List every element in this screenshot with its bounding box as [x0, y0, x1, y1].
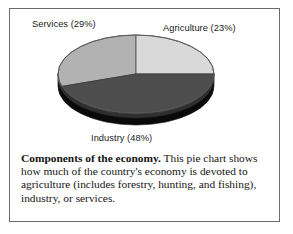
- figure-caption: Components of the economy. This pie char…: [21, 152, 268, 205]
- pie-slice-agriculture: [136, 35, 214, 74]
- figure-root: Services (29%) Agriculture (23%) Industr…: [0, 0, 293, 234]
- pie-label-agriculture: Agriculture (23%): [163, 23, 236, 34]
- pie-chart: Services (29%) Agriculture (23%) Industr…: [10, 9, 279, 149]
- figure-caption-lead: Components of the economy.: [21, 152, 161, 164]
- pie-label-services: Services (29%): [32, 19, 96, 30]
- figure-frame: Services (29%) Agriculture (23%) Industr…: [9, 8, 280, 222]
- pie-chart-graphic: [10, 9, 279, 149]
- pie-label-industry: Industry (48%): [91, 133, 152, 144]
